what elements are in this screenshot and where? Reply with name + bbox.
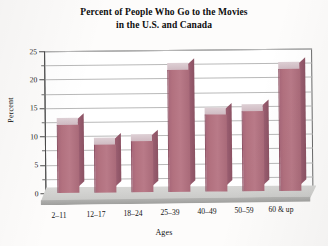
bar-chart: Percent of People Who Go to the Movies i…	[0, 0, 328, 246]
x-axis-title: Ages	[0, 228, 328, 237]
x-tick-label-60-and-up: 60 & up	[259, 206, 303, 214]
x-axis-tick-labels: 2–11 12–17 18–24 25–39 40–49 50–59 60 & …	[0, 0, 328, 246]
